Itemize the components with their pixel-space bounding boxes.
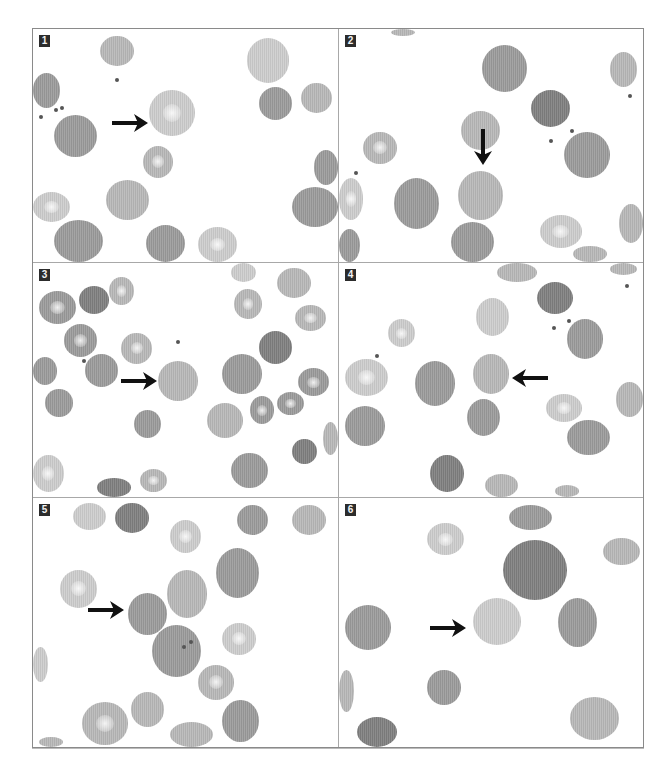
blood-cell	[259, 87, 293, 120]
blood-cell	[54, 115, 97, 157]
panel-label: 3	[39, 269, 50, 281]
arrow-right-icon	[121, 371, 157, 391]
arrow-right-icon	[112, 113, 148, 133]
blood-cell	[222, 700, 259, 742]
blood-cell	[170, 520, 201, 552]
blood-cell	[140, 469, 167, 492]
blood-cell	[391, 29, 415, 36]
debris-particle	[375, 354, 379, 358]
debris-particle	[628, 94, 632, 98]
blood-cell	[415, 361, 455, 405]
blood-cell	[106, 180, 149, 220]
blood-cell	[394, 178, 440, 229]
blood-cell	[198, 227, 238, 262]
blood-cell	[33, 455, 64, 492]
arrow-down-icon	[473, 129, 493, 165]
panel-4: 4	[338, 262, 643, 497]
blood-cell	[619, 204, 643, 244]
blood-cell	[345, 359, 388, 396]
blood-cell	[152, 625, 201, 677]
blood-cell	[363, 132, 396, 165]
debris-particle	[354, 171, 358, 175]
debris-particle	[570, 129, 574, 133]
blood-cell	[250, 396, 274, 424]
blood-cell	[485, 474, 518, 497]
blood-cell	[473, 354, 509, 394]
panel-label: 2	[345, 35, 356, 47]
panel-3: 3	[33, 262, 338, 497]
blood-cell	[567, 420, 610, 455]
blood-cell	[430, 455, 463, 492]
blood-cell	[616, 382, 643, 417]
blood-cell	[198, 665, 235, 700]
blood-cell	[503, 540, 567, 600]
blood-cell	[458, 171, 504, 220]
blood-cell	[64, 324, 98, 357]
blood-cell	[121, 333, 152, 363]
panel-6: 6	[338, 497, 643, 747]
blood-cell	[497, 263, 537, 282]
blood-cell	[207, 403, 244, 438]
blood-cell	[451, 222, 494, 262]
blood-cell	[546, 394, 582, 422]
blood-cell	[427, 523, 463, 555]
blood-cell	[222, 623, 256, 655]
blood-cell	[339, 178, 363, 220]
blood-cell	[231, 453, 268, 488]
blood-cell	[167, 570, 207, 617]
blood-cell	[45, 389, 72, 417]
blood-cell	[131, 692, 165, 727]
blood-cell	[570, 697, 619, 739]
blood-cell	[345, 605, 391, 650]
blood-cell	[39, 737, 63, 747]
blood-cell	[237, 505, 268, 535]
blood-cell	[473, 598, 522, 645]
blood-cell	[231, 263, 255, 282]
blood-cell	[323, 422, 338, 455]
blood-cell	[222, 354, 262, 394]
blood-cell	[540, 215, 583, 248]
blood-cell	[509, 505, 552, 530]
arrow-right-icon	[430, 618, 466, 638]
blood-cell	[73, 503, 107, 530]
blood-cell	[292, 187, 338, 227]
blood-cell	[537, 282, 573, 315]
blood-cell	[100, 36, 134, 66]
blood-cell	[610, 263, 637, 275]
blood-cell	[97, 478, 131, 497]
blood-cell	[247, 38, 290, 82]
blood-cell	[292, 439, 316, 465]
panel-label: 6	[345, 504, 356, 516]
blood-cell	[427, 670, 460, 705]
blood-cell	[54, 220, 103, 262]
blood-cell	[357, 717, 397, 747]
blood-cell	[115, 503, 149, 533]
blood-cell	[298, 368, 329, 396]
debris-particle	[54, 108, 58, 112]
arrow-right-icon	[88, 600, 124, 620]
debris-particle	[567, 319, 571, 323]
panel-label: 5	[39, 504, 50, 516]
panel-label: 1	[39, 35, 50, 47]
blood-cell	[301, 83, 332, 113]
blood-cell	[573, 246, 606, 262]
blood-cell	[339, 229, 360, 262]
blood-cell	[33, 647, 48, 682]
blood-cell	[33, 73, 60, 108]
blood-cell	[33, 357, 57, 385]
blood-cell	[234, 289, 261, 319]
blood-cell	[170, 722, 213, 747]
blood-cell	[610, 52, 637, 87]
blood-cell	[277, 268, 311, 298]
blood-cell	[143, 146, 174, 179]
debris-particle	[549, 139, 553, 143]
blood-cell	[277, 392, 304, 415]
blood-cell	[339, 670, 354, 712]
blood-cell	[146, 225, 186, 262]
blood-cell	[292, 505, 326, 535]
blood-cell	[158, 361, 198, 401]
blood-cell	[603, 538, 639, 565]
blood-cell	[567, 319, 603, 359]
blood-cell	[388, 319, 415, 347]
debris-particle	[115, 78, 119, 82]
